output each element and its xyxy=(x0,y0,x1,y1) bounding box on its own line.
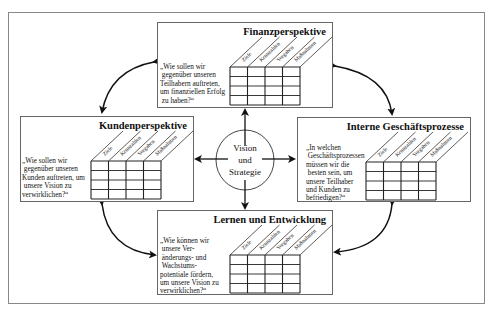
column-header: Maßnahmen xyxy=(293,39,317,62)
column-header: Maßnahmen xyxy=(293,227,317,250)
box-finanzperspektive: Finanzperspektive „Wie sollen wir gegenü… xyxy=(157,22,333,108)
measures-grid: ZieleKennzahlenVorgabenMaßnahmen xyxy=(228,213,338,293)
curved-arrow-top-left xyxy=(102,62,154,112)
vision-line-2: und xyxy=(215,154,275,166)
curved-arrow-top-right xyxy=(335,66,392,114)
box-question: „Wie sollen wir gegenüber unseren Kunden… xyxy=(22,157,85,199)
measures-grid: ZieleKennzahlenVorgabenMaßnahmen xyxy=(228,25,338,105)
column-header: Ziele xyxy=(240,50,253,62)
box-question: „Wie können wir unsere Ver- änderungs- u… xyxy=(160,237,219,296)
vision-line-3: Strategie xyxy=(215,166,275,178)
box-question: „In welchen Geschäftsprozessen müssen wi… xyxy=(306,144,364,203)
column-header: Ziele xyxy=(376,145,389,157)
box-lernen-und-entwicklung: Lernen und Entwicklung „Wie können wir u… xyxy=(157,210,333,295)
measures-grid: ZieleKennzahlenVorgabenMaßnahmen xyxy=(89,119,199,199)
curved-arrow-bottom-left xyxy=(102,204,155,255)
curved-arrow-bottom-right xyxy=(335,204,392,252)
column-header: Ziele xyxy=(101,144,114,156)
column-header: Ziele xyxy=(240,238,253,250)
vision-label: Vision und Strategie xyxy=(215,142,275,178)
box-question: „Wie sollen wir gegenüber unseren Teilha… xyxy=(160,63,225,105)
balanced-scorecard-diagram: Vision und Strategie Finanzperspektive „… xyxy=(0,0,492,313)
measures-grid: ZieleKennzahlenVorgabenMaßnahmen xyxy=(364,120,474,200)
column-header: Maßnahmen xyxy=(429,134,453,157)
vision-line-1: Vision xyxy=(215,142,275,154)
box-interne-geschaeftsprozesse: Interne Geschäftsprozesse „In welchen Ge… xyxy=(297,117,471,202)
column-header: Maßnahmen xyxy=(154,133,178,156)
box-kundenperspektive: Kundenperspektive „Wie sollen wir gegenü… xyxy=(20,116,194,202)
